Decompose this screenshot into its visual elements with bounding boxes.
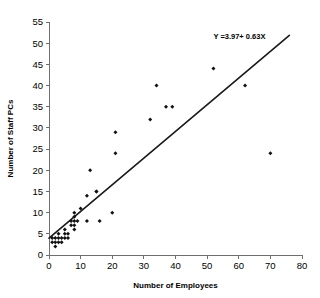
data-point [268, 151, 272, 155]
x-tick-label: 40 [170, 260, 181, 271]
x-axis-tick-marks [49, 255, 302, 259]
y-tick-label: 15 [32, 186, 43, 197]
data-point [56, 232, 60, 236]
x-tick-label: 20 [107, 260, 118, 271]
y-tick-label: 0 [38, 249, 43, 260]
data-point [72, 223, 76, 227]
y-tick-label: 50 [32, 38, 43, 49]
y-tick-label: 25 [32, 143, 43, 154]
y-tick-label: 5 [38, 228, 43, 239]
x-tick-label: 50 [202, 260, 213, 271]
data-point [72, 228, 76, 232]
data-point [88, 168, 92, 172]
x-axis-title: Number of Employees [133, 281, 218, 290]
data-point [63, 228, 67, 232]
data-point-group [50, 67, 272, 249]
y-tick-label: 55 [32, 16, 43, 27]
x-tick-label: 60 [233, 260, 244, 271]
data-point [243, 84, 247, 88]
x-tick-label: 80 [297, 260, 308, 271]
data-point [113, 130, 117, 134]
x-tick-label: 10 [75, 260, 86, 271]
data-point [164, 105, 168, 109]
y-tick-label: 45 [32, 59, 43, 70]
y-axis-tick-marks [46, 22, 50, 255]
chart-canvas: 0510152025303540455055 01020304050607080… [0, 0, 320, 298]
y-tick-label: 35 [32, 101, 43, 112]
data-point [75, 219, 79, 223]
data-point [94, 189, 98, 193]
data-point [72, 211, 76, 215]
data-point [60, 240, 64, 244]
data-point [66, 236, 70, 240]
data-point [113, 151, 117, 155]
data-point [211, 67, 215, 71]
data-point [53, 245, 57, 249]
data-point [110, 211, 114, 215]
y-tick-label: 40 [32, 80, 43, 91]
x-tick-label: 0 [46, 260, 51, 271]
data-point [155, 84, 159, 88]
y-axis-title: Number of Staff PCs [6, 99, 15, 177]
data-point [148, 117, 152, 121]
data-point [85, 194, 89, 198]
y-axis-tick-labels: 0510152025303540455055 [32, 16, 43, 260]
x-tick-label: 30 [139, 260, 150, 271]
x-tick-label: 70 [265, 260, 276, 271]
data-point [98, 219, 102, 223]
regression-line [49, 35, 289, 238]
regression-equation-label: Y =3.97+ 0.63X [213, 32, 265, 41]
data-point [85, 219, 89, 223]
x-axis-tick-labels: 01020304050607080 [46, 260, 307, 271]
data-point [66, 232, 70, 236]
scatter-chart: 0510152025303540455055 01020304050607080… [0, 0, 320, 298]
y-tick-label: 20 [32, 165, 43, 176]
data-point [170, 105, 174, 109]
y-tick-label: 10 [32, 207, 43, 218]
y-tick-label: 30 [32, 122, 43, 133]
